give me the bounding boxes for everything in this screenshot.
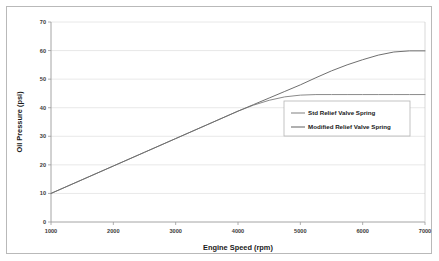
y-tick-label: 70 bbox=[40, 19, 46, 25]
x-tick-label: 6000 bbox=[356, 228, 368, 234]
legend-label: Modified Relief Valve Spring bbox=[308, 123, 391, 130]
y-tick-label: 50 bbox=[40, 76, 46, 82]
x-tick-label: 5000 bbox=[294, 228, 306, 234]
chart-legend[interactable]: Std Relief Valve SpringModified Relief V… bbox=[284, 101, 410, 136]
x-tick-label: 4000 bbox=[232, 228, 244, 234]
y-tick-label: 10 bbox=[40, 190, 46, 196]
x-tick-label: 7000 bbox=[419, 228, 431, 234]
chart-figure: 010203040506070 100020003000400050006000… bbox=[0, 0, 439, 261]
y-tick-label: 60 bbox=[40, 48, 46, 54]
legend-label: Std Relief Valve Spring bbox=[308, 109, 376, 116]
chart-svg: 010203040506070 100020003000400050006000… bbox=[0, 0, 439, 261]
x-axis-title: Engine Speed (rpm) bbox=[203, 243, 273, 252]
plot-area: 010203040506070 100020003000400050006000… bbox=[0, 0, 439, 261]
x-tick-label: 3000 bbox=[169, 228, 181, 234]
y-tick-label: 0 bbox=[43, 219, 46, 225]
x-tick-label: 1000 bbox=[45, 228, 57, 234]
y-axis-title: Oil Pressure (psi) bbox=[15, 91, 24, 153]
y-tick-label: 20 bbox=[40, 162, 46, 168]
x-axis-tick-labels: 1000200030004000500060007000 bbox=[45, 228, 431, 234]
x-tick-label: 2000 bbox=[107, 228, 119, 234]
y-tick-label: 40 bbox=[40, 105, 46, 111]
y-axis-tick-labels: 010203040506070 bbox=[40, 19, 46, 225]
y-tick-label: 30 bbox=[40, 133, 46, 139]
legend-box bbox=[284, 101, 410, 136]
